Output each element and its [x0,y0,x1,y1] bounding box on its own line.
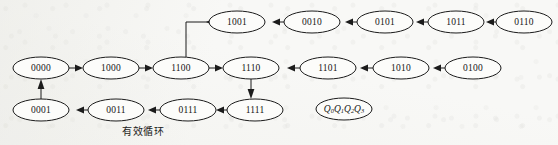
edge-0110-to-1011 [486,19,496,26]
edge-1100-to-1110 [209,65,223,72]
state-node-label: 1000 [101,63,121,73]
node-layer: 0000 1000 1100 1110 1101 1010 [13,11,552,121]
edge-1111-to-0111 [216,107,227,114]
state-node-1101[interactable]: 1101 [300,57,356,79]
valid-cycle-caption: 有效循环 [122,123,164,138]
state-node-0010[interactable]: 0010 [284,11,340,33]
state-node-label: 1111 [246,105,265,115]
edge-1010-to-1101 [360,65,373,72]
state-node-label: 1101 [318,63,337,73]
edge-0010-to-1001 [272,19,284,26]
state-node-label: 0001 [31,105,51,115]
legend-q3-sub: 3 [360,107,364,114]
state-node-0111[interactable]: 0111 [160,99,216,121]
state-node-1100[interactable]: 1100 [153,57,209,79]
edge-1011-to-0101 [416,19,428,26]
state-node-0000[interactable]: 0000 [13,57,69,79]
state-node-label: 1010 [391,63,411,73]
edge-0001-to-0000 [38,79,45,99]
state-node-label: 0010 [302,17,322,27]
edge-0000-to-1000 [69,65,83,72]
state-transition-diagram: 0000 1000 1100 1110 1101 1010 [0,0,558,145]
state-node-1000[interactable]: 1000 [83,57,139,79]
state-node-label: 0100 [463,63,483,73]
state-node-0011[interactable]: 0011 [88,99,144,121]
state-node-1110[interactable]: 1110 [223,57,279,79]
legend-node-bit-order: Q0Q1Q2Q3 [316,98,372,120]
state-node-1111[interactable]: 1111 [227,99,283,121]
edge-1000-to-1100 [139,65,153,72]
state-node-label: 1100 [171,63,190,73]
edge-0011-to-0001 [76,107,88,114]
state-node-0100[interactable]: 0100 [445,57,501,79]
edge-0111-to-0011 [148,107,160,114]
state-node-0001[interactable]: 0001 [13,99,69,121]
state-node-label: 0011 [106,105,125,115]
state-node-label: 1110 [241,63,260,73]
state-node-1001[interactable]: 1001 [209,11,265,33]
state-node-label: 1011 [446,17,465,27]
edge-0101-to-0010 [345,19,357,26]
state-node-label: 0111 [178,105,197,115]
legend-node-label: Q0Q1Q2Q3 [324,104,364,115]
state-node-0101[interactable]: 0101 [357,11,413,33]
state-node-label: 0101 [375,17,395,27]
state-diagram-page: 0000 1000 1100 1110 1101 1010 [0,0,558,145]
edge-0100-to-1010 [433,65,445,72]
state-node-label: 0110 [514,17,533,27]
edge-1110-to-1111 [248,79,255,99]
state-node-1010[interactable]: 1010 [373,57,429,79]
state-node-label: 1001 [227,17,247,27]
state-node-0110[interactable]: 0110 [496,11,552,33]
state-node-1011[interactable]: 1011 [428,11,484,33]
edge-1101-to-1110 [287,65,300,72]
state-node-label: 0000 [31,63,51,73]
